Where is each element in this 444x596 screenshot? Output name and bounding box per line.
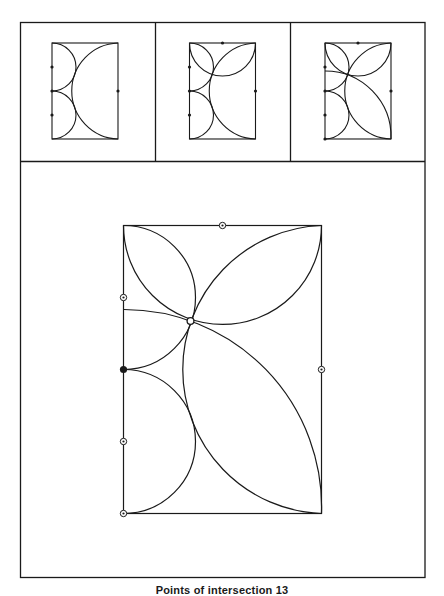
point-marker [50, 89, 53, 92]
panel-final-figure [120, 222, 325, 516]
target-point-center [122, 440, 124, 442]
filled-point-marker [120, 366, 127, 373]
panel-step-2 [188, 41, 257, 139]
point-marker [254, 89, 257, 92]
panel-step-3 [323, 41, 392, 140]
big-right-arc-arc [345, 43, 391, 139]
diagonal-arc-arc [325, 71, 391, 139]
construction-diagram [0, 0, 444, 596]
panel-step-1 [50, 43, 119, 139]
point-marker [323, 137, 326, 140]
diagonal-arc-arc [124, 309, 322, 513]
big-right-arc-arc [72, 43, 118, 139]
figure-caption: Points of intersection 13 [0, 584, 444, 596]
top-arc-arc [124, 226, 322, 325]
target-point-center [122, 512, 124, 514]
point-marker [323, 65, 326, 68]
big-right-arc-arc [209, 43, 255, 139]
point-marker [389, 89, 392, 92]
target-point-center [320, 368, 322, 370]
point-marker [116, 89, 119, 92]
point-marker [50, 65, 53, 68]
frame-border [21, 23, 426, 578]
point-marker [323, 113, 326, 116]
point-marker [356, 41, 359, 44]
big-right-arc-arc [183, 226, 322, 514]
point-marker [323, 89, 326, 92]
point-marker [188, 65, 191, 68]
outer-frame [21, 23, 426, 578]
point-marker [50, 113, 53, 116]
intersection-point-marker [187, 318, 194, 325]
target-point-center [221, 224, 223, 226]
target-point-center [122, 296, 124, 298]
construction-rectangle [124, 226, 322, 514]
top-arc-arc [190, 43, 256, 76]
top-arc-arc [325, 43, 391, 76]
point-marker [221, 41, 224, 44]
point-marker [188, 89, 191, 92]
point-marker [188, 113, 191, 116]
